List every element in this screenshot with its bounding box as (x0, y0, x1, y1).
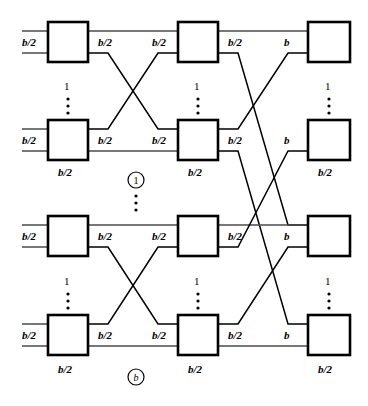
link-s1r4-top-cross (88, 247, 178, 324)
ellipsis-dot-s1l-2 (66, 299, 69, 302)
switch-box-s1r3[interactable] (48, 216, 88, 256)
label-s2r1-in: b/2 (152, 36, 167, 48)
stage2-input-labels: b/2 b/2 b/2 b/2 (152, 36, 167, 341)
label-s1r2-out: b/2 (98, 134, 113, 146)
ellipsis-dot-s3u-3 (327, 111, 330, 114)
switch-box-s2r1[interactable] (178, 22, 218, 62)
ellipsis-dot-s1l-3 (66, 306, 69, 309)
label-s3r3-in: b (284, 230, 290, 242)
label-s1r4-bottom: b/2 (58, 363, 73, 375)
interconnection-network-svg: b/2 b/2 b/2 b/2 b/2 b/2 b/2 b/2 b/2 b/2 … (0, 0, 368, 406)
ellipsis-dot-s2l-1 (196, 292, 199, 295)
replication-count-s1-lower: 1 (64, 275, 70, 287)
stage2-boxes (178, 22, 218, 355)
switch-box-s3r3[interactable] (308, 216, 350, 256)
label-s2r1-out: b/2 (228, 36, 243, 48)
group-top-dot-1 (134, 194, 137, 197)
ellipsis-dot-s1u-3 (66, 111, 69, 114)
stage1-boxes (48, 22, 88, 355)
label-s2r2-out: b/2 (228, 134, 243, 146)
ellipsis-dot-s3u-2 (327, 104, 330, 107)
stage3-boxes (308, 22, 350, 355)
stage3-input-labels: b b b b (284, 36, 290, 341)
label-s2r3-out: b/2 (228, 230, 243, 242)
replication-count-s2-lower: 1 (194, 275, 200, 287)
label-s2r4-in: b/2 (152, 329, 167, 341)
ellipsis-dot-s2u-1 (196, 97, 199, 100)
input-wires-group (22, 31, 48, 346)
group-marker-top: 1 (128, 172, 144, 212)
ellipsis-dot-s3l-1 (327, 292, 330, 295)
switch-box-s2r3[interactable] (178, 216, 218, 256)
label-s1r1-in: b/2 (22, 36, 37, 48)
switch-box-s1r1[interactable] (48, 22, 88, 62)
ellipsis-dot-s2l-2 (196, 299, 199, 302)
label-s3r4-in: b (284, 329, 290, 341)
label-s2r2-in: b/2 (152, 134, 167, 146)
switch-box-s2r4[interactable] (178, 315, 218, 355)
label-s3r2-bottom: b/2 (318, 166, 333, 178)
label-s1r3-in: b/2 (22, 230, 37, 242)
switch-box-s1r4[interactable] (48, 315, 88, 355)
replication-count-s3-upper: 1 (325, 80, 331, 92)
link-s1r2-top-cross (88, 53, 178, 129)
stage1-input-labels: b/2 b/2 b/2 b/2 (22, 36, 37, 341)
stage1-to-stage2-links (88, 31, 178, 346)
ellipsis-dot-s1u-2 (66, 104, 69, 107)
ellipsis-dot-s3u-1 (327, 97, 330, 100)
label-s1r4-in: b/2 (22, 329, 37, 341)
ellipsis-dot-s2u-2 (196, 104, 199, 107)
group-top-dot-2 (134, 201, 137, 204)
label-s2r4-bottom: b/2 (188, 363, 203, 375)
label-s2r3-in: b/2 (152, 230, 167, 242)
stage1-output-labels: b/2 b/2 b/2 b/2 (98, 36, 113, 341)
ellipsis-dot-s3l-3 (327, 306, 330, 309)
label-s1r2-bottom: b/2 (58, 166, 73, 178)
label-s3r2-in: b (284, 134, 290, 146)
network-diagram: b/2 b/2 b/2 b/2 b/2 b/2 b/2 b/2 b/2 b/2 … (0, 0, 368, 406)
label-s2r2-bottom: b/2 (188, 166, 203, 178)
replication-count-s3-lower: 1 (325, 275, 331, 287)
ellipsis-dot-s1l-1 (66, 292, 69, 295)
switch-box-s2r2[interactable] (178, 120, 218, 160)
ellipsis-dot-s3l-2 (327, 299, 330, 302)
link-s2r2-top-cross (218, 53, 308, 129)
label-s1r2-in: b/2 (22, 134, 37, 146)
label-s2r4-out: b/2 (228, 329, 243, 341)
group-marker-bottom-label: b (134, 372, 139, 383)
replication-markers: 1 1 1 1 1 1 (64, 80, 331, 310)
ellipsis-dot-s2u-3 (196, 111, 199, 114)
stage2-to-stage3-links (218, 31, 308, 346)
group-marker-bottom: b (128, 369, 144, 385)
group-top-dot-3 (134, 208, 137, 211)
replication-count-s2-upper: 1 (194, 80, 200, 92)
switch-box-s3r1[interactable] (308, 22, 350, 62)
label-s3r4-bottom: b/2 (318, 363, 333, 375)
ellipsis-dot-s2l-3 (196, 306, 199, 309)
stage2-output-labels: b/2 b/2 b/2 b/2 (228, 36, 243, 341)
replication-count-s1-upper: 1 (64, 80, 70, 92)
switch-box-s1r2[interactable] (48, 120, 88, 160)
label-s3r1-in: b (284, 36, 290, 48)
switch-box-s3r2[interactable] (308, 120, 350, 160)
label-s1r1-out: b/2 (98, 36, 113, 48)
label-s1r4-out: b/2 (98, 329, 113, 341)
link-s2r4-top-cross (218, 247, 308, 324)
group-marker-top-label: 1 (134, 175, 139, 186)
ellipsis-dot-s1u-1 (66, 97, 69, 100)
label-s1r3-out: b/2 (98, 230, 113, 242)
switch-box-s3r4[interactable] (308, 315, 350, 355)
